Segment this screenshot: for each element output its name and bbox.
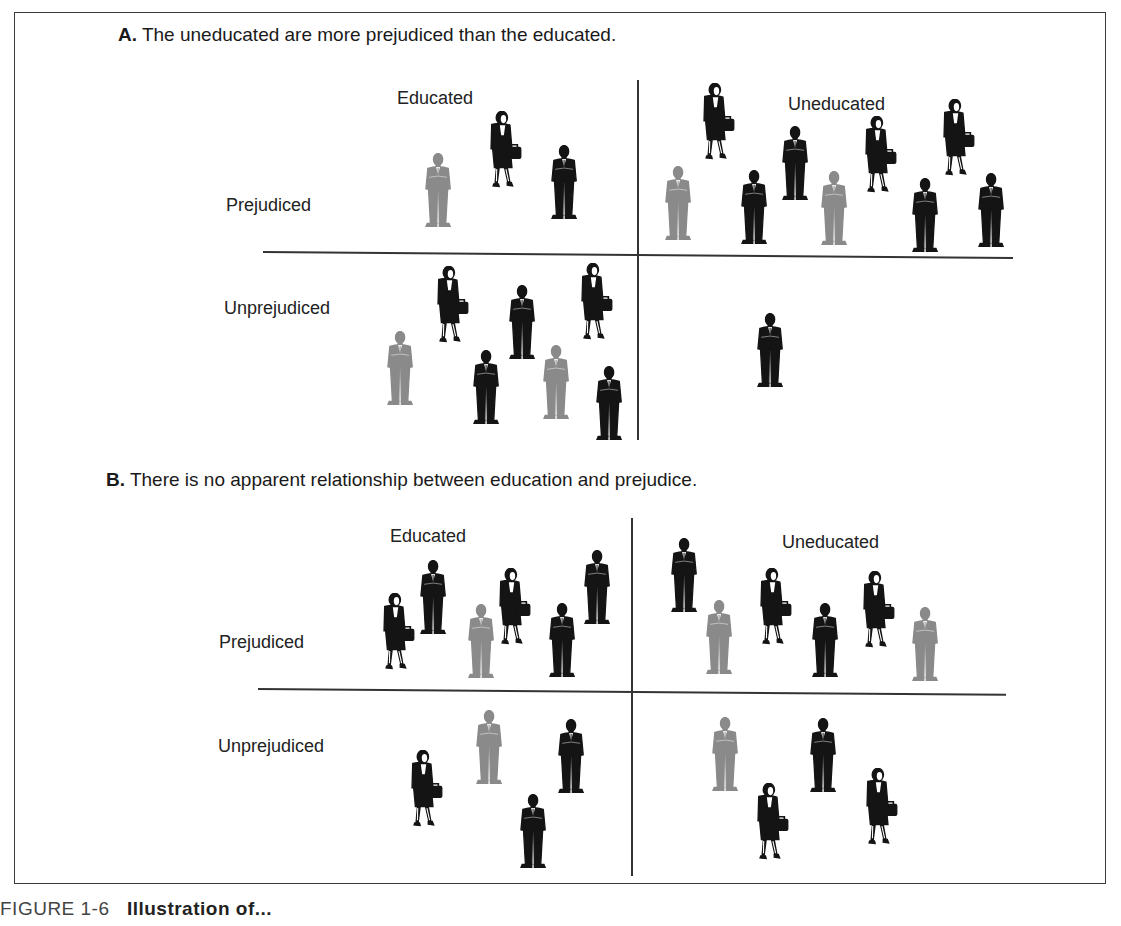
- panel-a-col-uneducated: Uneducated: [788, 94, 885, 115]
- panel-b-row-unprejudiced: Unprejudiced: [218, 736, 324, 757]
- person-woman-icon: [487, 111, 522, 189]
- person-gray-man-icon: [475, 710, 503, 784]
- person-black-man-icon: [508, 285, 536, 359]
- person-black-man-icon: [670, 538, 698, 612]
- panel-a-title: The uneducated are more prejudiced than …: [142, 24, 616, 45]
- panel-a-heading: A. The uneducated are more prejudiced th…: [118, 24, 616, 46]
- person-black-man-icon: [583, 550, 611, 624]
- person-gray-man-icon: [542, 345, 570, 419]
- person-woman-icon: [940, 99, 975, 177]
- person-woman-icon: [578, 263, 613, 341]
- person-black-man-icon: [911, 178, 939, 252]
- person-black-man-icon: [548, 603, 576, 677]
- person-gray-man-icon: [664, 166, 692, 240]
- caption-prefix: FIGURE 1-6: [0, 898, 110, 919]
- person-black-man-icon: [519, 794, 547, 868]
- person-black-man-icon: [595, 366, 623, 440]
- panel-b-col-uneducated: Uneducated: [782, 532, 879, 553]
- panel-a-col-educated: Educated: [397, 88, 473, 109]
- person-woman-icon: [860, 571, 895, 649]
- panel-b-row-prejudiced: Prejudiced: [219, 632, 304, 653]
- person-black-man-icon: [811, 603, 839, 677]
- person-gray-man-icon: [820, 171, 848, 245]
- panel-a-vertical-divider: [637, 80, 639, 440]
- person-black-man-icon: [472, 350, 500, 424]
- person-black-man-icon: [419, 560, 447, 634]
- person-woman-icon: [496, 568, 531, 646]
- person-woman-icon: [408, 750, 443, 828]
- person-gray-man-icon: [467, 604, 495, 678]
- panel-b-vertical-divider: [631, 518, 633, 876]
- person-gray-man-icon: [386, 331, 414, 405]
- person-gray-man-icon: [705, 600, 733, 674]
- person-woman-icon: [754, 783, 789, 861]
- panel-b-col-educated: Educated: [390, 526, 466, 547]
- person-woman-icon: [862, 116, 897, 194]
- person-gray-man-icon: [911, 607, 939, 681]
- person-black-man-icon: [781, 126, 809, 200]
- figure-caption: FIGURE 1-6 Illustration of...: [0, 898, 272, 920]
- person-gray-man-icon: [424, 153, 452, 227]
- person-woman-icon: [434, 266, 469, 344]
- person-woman-icon: [380, 593, 415, 671]
- person-woman-icon: [700, 83, 735, 161]
- person-black-man-icon: [809, 718, 837, 792]
- panel-a-letter: A.: [118, 24, 137, 45]
- person-black-man-icon: [756, 313, 784, 387]
- caption-title: Illustration of...: [127, 898, 272, 919]
- person-woman-icon: [757, 568, 792, 646]
- person-black-man-icon: [977, 173, 1005, 247]
- panel-a-row-prejudiced: Prejudiced: [226, 195, 311, 216]
- person-black-man-icon: [740, 170, 768, 244]
- person-black-man-icon: [557, 719, 585, 793]
- panel-b-heading: B. There is no apparent relationship bet…: [106, 469, 697, 491]
- panel-b-title: There is no apparent relationship betwee…: [130, 469, 697, 490]
- panel-a-row-unprejudiced: Unprejudiced: [224, 298, 330, 319]
- panel-b-letter: B.: [106, 469, 125, 490]
- person-gray-man-icon: [711, 717, 739, 791]
- person-woman-icon: [863, 768, 898, 846]
- person-black-man-icon: [550, 145, 578, 219]
